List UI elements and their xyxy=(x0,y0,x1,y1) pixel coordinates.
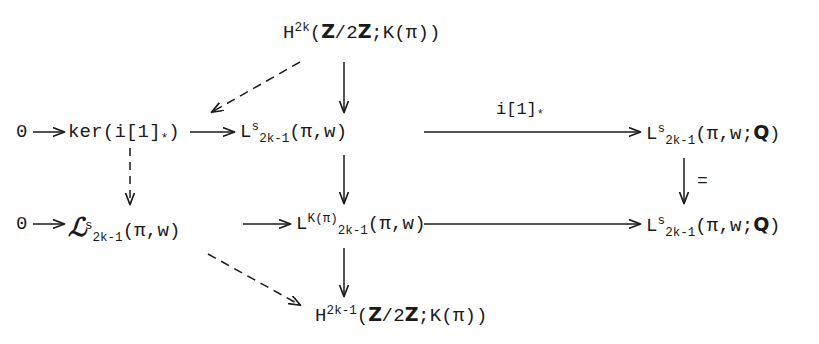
l-s-mid-sub: 2k-1 xyxy=(259,132,289,146)
bottom-cohomology-integers-1: Z xyxy=(368,303,381,325)
node-zero-bottom: 0 xyxy=(16,215,27,234)
bottom-cohomology-open: ( xyxy=(357,305,369,327)
bottom-cohomology-tail: ;K(π)) xyxy=(418,305,488,327)
node-kernel: ker(i[1]*) xyxy=(68,123,180,142)
top-cohomology-sup: 2k xyxy=(295,21,310,35)
l-kpi-sub: 2k-1 xyxy=(338,224,368,238)
node-l-kpi: LK(π)2k-1(π,w) xyxy=(296,215,426,234)
l-s-q-top-sub: 2k-1 xyxy=(665,134,695,148)
script-l-base: ℒ xyxy=(68,213,85,242)
commutative-diagram-canvas: ker --> L^s --> L^s(Q) (long labelled ar… xyxy=(0,0,819,344)
top-cohomology-integers-1: Z xyxy=(321,20,334,42)
l-kpi-sup: K(π) xyxy=(308,212,338,226)
dashed-arrow-scriptl-to-bottom-cohomology xyxy=(208,254,300,305)
l-s-q-top-rationals: Q xyxy=(753,121,769,143)
l-s-mid-base: L xyxy=(240,121,252,143)
kernel-close: ) xyxy=(168,121,180,143)
script-l-args: (π,w) xyxy=(123,220,181,242)
node-top-cohomology: H2k(Z/2Z;K(π)) xyxy=(283,22,441,43)
node-l-s-mid: Ls2k-1(π,w) xyxy=(240,123,347,142)
script-l-sup: s xyxy=(85,219,93,233)
bottom-cohomology-slash: /2 xyxy=(382,305,405,327)
kernel-base: ker(i[1] xyxy=(68,121,161,143)
top-cohomology-tail: ;K(π)) xyxy=(371,22,441,44)
arrow-label-identity: = xyxy=(697,172,708,190)
top-cohomology-open: ( xyxy=(310,22,322,44)
l-s-mid-args: (π,w) xyxy=(289,121,347,143)
top-cohomology-base: H xyxy=(283,22,295,44)
l-s-q-top-sup: s xyxy=(658,122,666,136)
l-s-q-top-base: L xyxy=(646,123,658,145)
script-l-sub: 2k-1 xyxy=(93,231,123,245)
l-s-q-bottom-close: ) xyxy=(769,215,781,237)
dashed-arrow-top-cohomology-to-kernel xyxy=(212,62,300,112)
l-kpi-args: (π,w) xyxy=(368,213,426,235)
bottom-cohomology-base: H xyxy=(315,305,327,327)
l-s-q-bottom-rationals: Q xyxy=(753,213,769,235)
arrow-label-i-one-star: i[1]* xyxy=(496,101,544,118)
bottom-cohomology-sup: 2k-1 xyxy=(327,304,357,318)
arrow-label-i-one-star-text: i[1] xyxy=(496,100,537,119)
node-l-s-q-bottom: Ls2k-1(π,w;Q) xyxy=(646,215,781,236)
arrow-label-i-one-star-sub: * xyxy=(537,108,544,122)
l-s-q-bottom-args: (π,w; xyxy=(695,215,753,237)
node-zero-top: 0 xyxy=(16,123,27,142)
l-s-q-bottom-sup: s xyxy=(658,214,666,228)
node-script-l: ℒs2k-1(π,w) xyxy=(68,215,181,241)
node-l-s-q-top: Ls2k-1(π,w;Q) xyxy=(646,123,781,144)
l-s-q-top-close: ) xyxy=(769,123,781,145)
node-bottom-cohomology: H2k-1(Z/2Z;K(π)) xyxy=(315,305,488,326)
l-s-q-bottom-base: L xyxy=(646,215,658,237)
bottom-cohomology-integers-2: Z xyxy=(405,303,418,325)
top-cohomology-integers-2: Z xyxy=(358,20,371,42)
top-cohomology-slash: /2 xyxy=(335,22,358,44)
l-kpi-base: L xyxy=(296,213,308,235)
l-s-q-top-args: (π,w; xyxy=(695,123,753,145)
l-s-q-bottom-sub: 2k-1 xyxy=(665,226,695,240)
l-s-mid-sup: s xyxy=(252,120,260,134)
